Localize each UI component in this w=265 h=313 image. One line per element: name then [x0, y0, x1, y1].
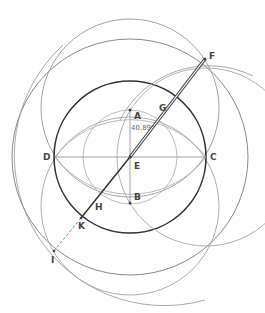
label-h: H: [95, 203, 103, 212]
point-b-dot: [129, 202, 132, 205]
label-i: I: [51, 256, 54, 265]
label-a: A: [134, 112, 141, 121]
point-i-dot: [53, 250, 56, 253]
angle-annotation: 40,89°: [131, 125, 155, 132]
point-f-dot: [204, 58, 207, 61]
construction-canvas: [0, 0, 265, 313]
label-g: G: [159, 104, 166, 113]
segment-ki-dashed: [54, 218, 81, 251]
point-k-dot: [80, 217, 83, 220]
label-c: C: [210, 153, 217, 162]
label-e: E: [134, 162, 140, 171]
label-d: D: [43, 153, 50, 162]
label-f: F: [209, 52, 215, 61]
geometry-diagram: A B C D E F G H I K 40,89°: [0, 0, 265, 313]
point-e-dot: [129, 156, 132, 159]
lens-arc-bottom: [55, 157, 206, 194]
segment-fe-inner: [130, 59, 205, 157]
label-k: K: [78, 222, 85, 231]
point-a-dot: [129, 109, 132, 112]
label-b: B: [134, 193, 141, 202]
